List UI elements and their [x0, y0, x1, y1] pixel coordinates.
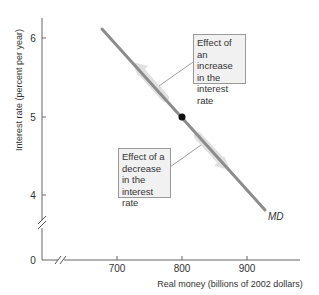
y-tick-label-5: 5	[30, 112, 36, 123]
y-axis-title: Interest rate (percent per year)	[14, 29, 24, 151]
callout-decrease: Effect of a decrease in the interest rat…	[118, 148, 171, 198]
callout-increase: Effect of an increase in the interest ra…	[193, 34, 246, 84]
y-tick-label-6: 6	[30, 33, 36, 44]
x-axis-title: Real money (billions of 2002 dollars)	[157, 279, 303, 289]
callout-decrease-leader	[170, 145, 201, 167]
x-tick-label-800: 800	[174, 263, 191, 274]
origin-label: 0	[30, 255, 36, 266]
equilibrium-point	[179, 114, 186, 121]
x-tick-label-900: 900	[239, 263, 256, 274]
x-tick-label-700: 700	[109, 263, 126, 274]
md-curve-label: MD	[268, 211, 284, 222]
y-tick-label-4: 4	[30, 190, 36, 201]
callout-increase-leader	[159, 62, 193, 86]
